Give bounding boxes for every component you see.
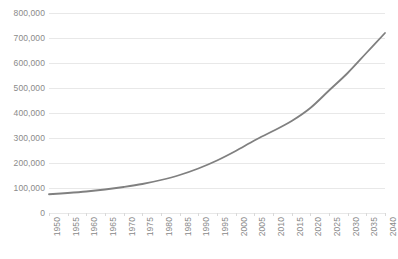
y-tick-label: 100,000 bbox=[0, 184, 45, 193]
x-tick-label: 1985 bbox=[184, 217, 193, 236]
x-tick-label: 1995 bbox=[221, 217, 230, 236]
series-line-chart bbox=[49, 13, 385, 213]
x-tick-mark bbox=[86, 213, 87, 216]
x-tick-mark bbox=[124, 213, 125, 216]
x-tick-label: 1975 bbox=[146, 217, 155, 236]
x-tick-label: 1980 bbox=[165, 217, 174, 236]
x-tick-mark bbox=[385, 213, 386, 216]
x-tick-mark bbox=[348, 213, 349, 216]
x-tick-mark bbox=[254, 213, 255, 216]
y-tick-label: 400,000 bbox=[0, 109, 45, 118]
x-tick-mark bbox=[68, 213, 69, 216]
y-tick-label: 700,000 bbox=[0, 34, 45, 43]
x-tick-label: 2025 bbox=[333, 217, 342, 236]
x-tick-label: 2035 bbox=[370, 217, 379, 236]
x-tick-mark bbox=[105, 213, 106, 216]
series-line-path bbox=[49, 33, 385, 194]
x-tick-mark bbox=[310, 213, 311, 216]
x-tick-mark bbox=[292, 213, 293, 216]
x-tick-label: 1955 bbox=[72, 217, 81, 236]
x-tick-label: 1960 bbox=[90, 217, 99, 236]
x-tick-label: 2005 bbox=[258, 217, 267, 236]
y-axis: 800,000700,000600,000500,000400,000300,0… bbox=[0, 13, 45, 213]
x-tick-mark bbox=[142, 213, 143, 216]
x-tick-mark bbox=[236, 213, 237, 216]
x-tick-label: 1950 bbox=[53, 217, 62, 236]
x-tick-mark bbox=[180, 213, 181, 216]
x-tick-label: 1990 bbox=[202, 217, 211, 236]
y-tick-label: 500,000 bbox=[0, 84, 45, 93]
y-tick-label: 800,000 bbox=[0, 9, 45, 18]
y-tick-label: 200,000 bbox=[0, 159, 45, 168]
x-tick-label: 2015 bbox=[296, 217, 305, 236]
x-tick-label: 1965 bbox=[109, 217, 118, 236]
x-tick-mark bbox=[49, 213, 50, 216]
x-tick-label: 1970 bbox=[128, 217, 137, 236]
x-tick-mark bbox=[161, 213, 162, 216]
x-axis: 1950195519601965197019751980198519901995… bbox=[49, 214, 385, 259]
x-tick-mark bbox=[329, 213, 330, 216]
x-tick-mark bbox=[273, 213, 274, 216]
x-tick-label: 2020 bbox=[314, 217, 323, 236]
x-tick-mark bbox=[198, 213, 199, 216]
y-tick-label: 0 bbox=[0, 209, 45, 218]
x-tick-label: 2030 bbox=[352, 217, 361, 236]
x-tick-label: 2010 bbox=[277, 217, 286, 236]
x-tick-label: 2000 bbox=[240, 217, 249, 236]
plot-area bbox=[49, 13, 385, 213]
x-tick-label: 2040 bbox=[389, 217, 398, 236]
y-tick-label: 300,000 bbox=[0, 134, 45, 143]
y-tick-label: 600,000 bbox=[0, 59, 45, 68]
x-tick-mark bbox=[366, 213, 367, 216]
x-tick-mark bbox=[217, 213, 218, 216]
